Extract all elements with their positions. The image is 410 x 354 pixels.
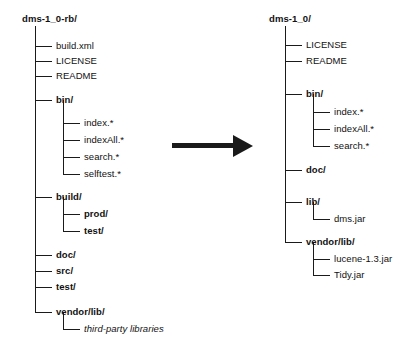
tree-branch-connector xyxy=(313,146,330,147)
tree-branch-connector xyxy=(285,202,302,203)
right-tree-root-label: dms-1_0/ xyxy=(269,13,311,24)
tree-branch-connector xyxy=(285,94,302,95)
tree-branch-connector xyxy=(313,129,330,130)
right-directory-tree: dms-1_0/ LICENSEREADMEbin/index.*indexAl… xyxy=(0,0,410,354)
tree-node-dir: bin/ xyxy=(306,88,323,99)
directory-tree-diagram: dms-1_0-rb/ build.xmlLICENSEREADMEbin/in… xyxy=(0,0,410,354)
tree-branch-connector xyxy=(313,219,330,220)
tree-branch-connector xyxy=(313,259,330,260)
tree-branch-connector xyxy=(313,275,330,276)
tree-node-file: search.* xyxy=(334,140,369,151)
tree-node-file: index.* xyxy=(334,106,363,117)
tree-node-file: README xyxy=(306,55,347,66)
tree-branch-connector xyxy=(285,45,302,46)
tree-node-file: LICENSE xyxy=(306,39,347,50)
tree-node-dir: doc/ xyxy=(306,164,326,175)
tree-branch-connector xyxy=(313,112,330,113)
tree-spine-line xyxy=(313,94,314,147)
tree-spine-line xyxy=(285,26,286,243)
tree-branch-connector xyxy=(285,170,302,171)
tree-node-file: Tidy.jar xyxy=(334,269,365,280)
tree-node-file: dms.jar xyxy=(334,213,366,224)
tree-node-dir: vendor/lib/ xyxy=(306,236,355,247)
tree-branch-connector xyxy=(285,242,302,243)
tree-node-file: indexAll.* xyxy=(334,123,374,134)
tree-node-file: lucene-1.3.jar xyxy=(334,253,392,264)
tree-node-dir: lib/ xyxy=(306,196,320,207)
tree-spine-line xyxy=(313,242,314,276)
tree-branch-connector xyxy=(285,61,302,62)
